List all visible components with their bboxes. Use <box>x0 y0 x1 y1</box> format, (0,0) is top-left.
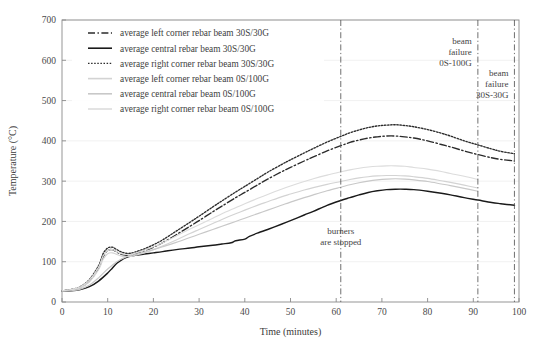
legend-label-5: average right corner rebar beam 0S/100G <box>120 104 274 114</box>
x-tick-label-10: 10 <box>103 307 113 317</box>
annotation-beam-failure-30s-30g-line-0: beam <box>489 68 509 78</box>
annotation-burners-stopped-line-0: burners <box>327 226 354 236</box>
legend-label-0: average left corner rebar beam 30S/30G <box>120 28 269 38</box>
y-tick-label-700: 700 <box>42 15 57 25</box>
x-tick-label-70: 70 <box>377 307 387 317</box>
x-tick-label-100: 100 <box>512 307 527 317</box>
legend-label-4: average central rebar beam 0S/100G <box>120 89 256 99</box>
y-tick-label-400: 400 <box>42 136 57 146</box>
annotation-beam-failure-30s-30g-line-1: failure <box>485 79 508 89</box>
y-tick-label-500: 500 <box>42 96 57 106</box>
chart-figure: 0102030405060708090100010020030040050060… <box>0 0 542 350</box>
x-tick-label-60: 60 <box>331 307 341 317</box>
y-tick-label-600: 600 <box>42 56 57 66</box>
x-tick-label-20: 20 <box>149 307 159 317</box>
y-tick-label-100: 100 <box>42 257 57 267</box>
annotation-beam-failure-0s-100g-line-1: failure <box>448 47 471 57</box>
legend-label-1: average central rebar beam 30S/30G <box>120 44 256 54</box>
x-tick-label-80: 80 <box>423 307 433 317</box>
chart-legend: average left corner rebar beam 30S/30Gav… <box>72 21 324 119</box>
x-tick-label-40: 40 <box>240 307 250 317</box>
y-tick-label-0: 0 <box>51 297 56 307</box>
annotation-beam-failure-30s-30g-line-2: 30S-30G <box>476 90 509 100</box>
annotation-beam-failure-0s-100g-line-2: 0S-100G <box>439 58 472 68</box>
annotation-beam-failure-0s-100g-line-0: beam <box>452 36 472 46</box>
legend-label-2: average right corner rebar beam 30S/30G <box>120 59 274 69</box>
x-tick-label-90: 90 <box>469 307 479 317</box>
x-tick-label-50: 50 <box>286 307 296 317</box>
temperature-time-line-chart: 0102030405060708090100010020030040050060… <box>0 0 542 350</box>
annotation-burners-stopped-line-1: are stopped <box>320 237 362 247</box>
legend-label-3: average left corner rebar beam 0S/100G <box>120 74 269 84</box>
y-tick-label-200: 200 <box>42 217 57 227</box>
x-axis-title: Time (minutes) <box>260 326 322 338</box>
x-tick-label-0: 0 <box>60 307 65 317</box>
x-tick-label-30: 30 <box>194 307 204 317</box>
y-tick-label-300: 300 <box>42 177 57 187</box>
y-axis-title: Temperature (°C) <box>7 126 19 196</box>
